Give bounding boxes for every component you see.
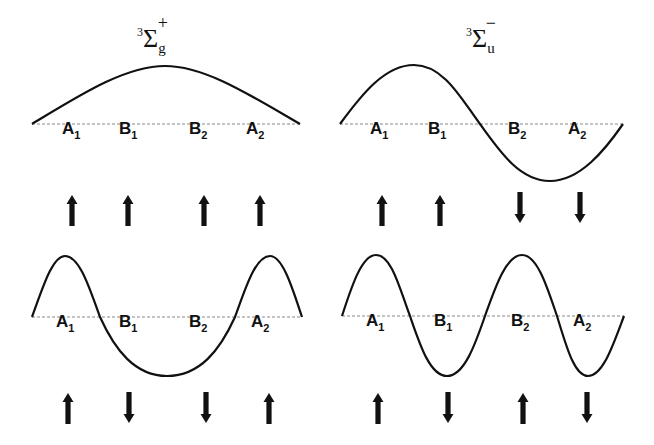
spin-down-arrow-icon xyxy=(575,192,586,223)
site-label: B1 xyxy=(428,119,446,141)
site-labels: A1 B1 B2 A2 xyxy=(56,312,269,334)
wave-curve xyxy=(340,65,623,181)
spin-up-arrow-icon xyxy=(373,393,384,424)
spin-down-arrow-icon xyxy=(443,392,454,423)
panel-bottom-left: A1 B1 B2 A2 xyxy=(32,256,302,424)
site-label: B2 xyxy=(189,119,207,141)
spin-up-arrow-icon xyxy=(199,195,210,226)
site-label: A1 xyxy=(56,312,74,334)
panel-title: 3Σg+ xyxy=(137,13,168,56)
spin-up-arrow-icon xyxy=(377,195,388,226)
panel-top-left: 3Σg+ A1 B1 B2 A2 xyxy=(32,13,300,226)
spin-up-arrow-icon xyxy=(255,195,266,226)
spin-down-arrow-icon xyxy=(582,392,593,423)
spin-wave-diagram: 3Σg+ A1 B1 B2 A2 3Σu− A1 B1 B2 A2 xyxy=(0,0,654,445)
spin-up-arrow-icon xyxy=(518,393,529,424)
site-label: A1 xyxy=(366,311,384,333)
panel-title: 3Σu− xyxy=(466,13,496,56)
spin-up-arrow-icon xyxy=(435,195,446,226)
spin-up-arrow-icon xyxy=(123,195,134,226)
spin-up-arrow-icon xyxy=(67,195,78,226)
site-label: A1 xyxy=(62,119,80,141)
site-label: A1 xyxy=(370,119,388,141)
site-label: A2 xyxy=(573,311,591,333)
site-label: A2 xyxy=(568,119,586,141)
site-label: B2 xyxy=(508,119,526,141)
site-labels: A1 B1 B2 A2 xyxy=(366,311,591,333)
site-label: B2 xyxy=(511,311,529,333)
spin-up-arrow-icon xyxy=(63,393,74,424)
site-label: A2 xyxy=(251,312,269,334)
spin-down-arrow-icon xyxy=(515,192,526,223)
wave-curve xyxy=(32,66,300,124)
site-label: B1 xyxy=(434,311,452,333)
spin-up-arrow-icon xyxy=(264,393,275,424)
panel-top-right: 3Σu− A1 B1 B2 A2 xyxy=(340,13,623,226)
site-label: B1 xyxy=(119,312,137,334)
site-labels: A1 B1 B2 A2 xyxy=(62,119,264,141)
site-label: B1 xyxy=(119,119,137,141)
spin-down-arrow-icon xyxy=(124,392,135,423)
site-label: A2 xyxy=(246,119,264,141)
site-label: B2 xyxy=(189,312,207,334)
panel-bottom-right: A1 B1 B2 A2 xyxy=(342,255,624,424)
spin-down-arrow-icon xyxy=(201,392,212,423)
